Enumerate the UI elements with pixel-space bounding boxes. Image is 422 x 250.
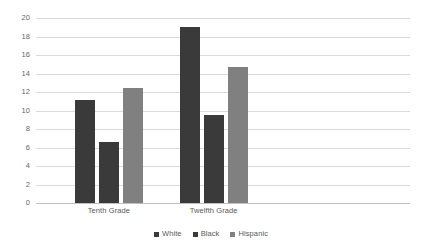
gridline-0 [36,203,410,204]
legend-swatch-icon [193,232,198,237]
chart-legend: WhiteBlackHispanic [0,230,422,238]
bar [180,27,200,203]
legend-item[interactable]: Black [193,230,220,238]
y-axis-tick-label: 0 [0,199,30,207]
bar [204,115,224,203]
y-axis-tick-label: 10 [0,107,30,115]
bar [99,142,119,203]
legend-item[interactable]: Hispanic [230,230,268,238]
y-axis-tick-label: 4 [0,162,30,170]
y-axis-tick-label: 2 [0,181,30,189]
y-axis-tick-label: 18 [0,33,30,41]
bar-group-container [36,18,410,203]
bar [228,67,248,203]
x-axis: Tenth GradeTwelfth Grade [36,206,410,220]
legend-swatch-icon [230,232,235,237]
legend-swatch-icon [154,232,159,237]
y-axis-tick-label: 6 [0,144,30,152]
x-axis-label: Tenth Grade [88,206,130,215]
y-axis-tick-label: 16 [0,51,30,59]
y-axis-tick-label: 8 [0,125,30,133]
bar [75,100,95,203]
legend-label: Black [201,230,220,238]
x-axis-label: Twelfth Grade [190,206,238,215]
y-axis: 02468101214161820 [0,18,30,203]
y-axis-tick-label: 20 [0,14,30,22]
legend-label: White [162,230,182,238]
legend-item[interactable]: White [154,230,182,238]
bar [123,88,143,203]
legend-label: Hispanic [238,230,268,238]
plot-area [36,18,410,203]
y-axis-tick-label: 12 [0,88,30,96]
bar-chart: 02468101214161820 Tenth GradeTwelfth Gra… [0,0,422,250]
y-axis-tick-label: 14 [0,70,30,78]
